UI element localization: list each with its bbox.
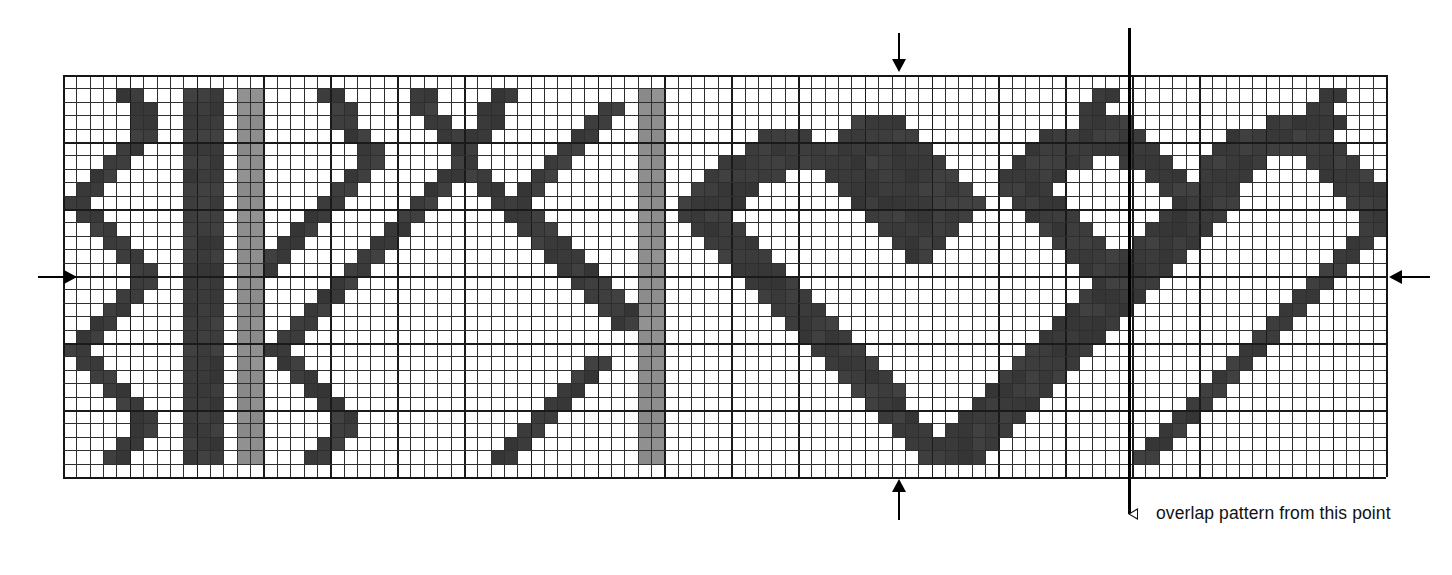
pattern-cell bbox=[1079, 142, 1092, 155]
pattern-cell bbox=[1105, 343, 1118, 356]
pattern-cell bbox=[972, 450, 985, 463]
pattern-cell bbox=[304, 437, 317, 450]
pattern-cell bbox=[263, 236, 276, 249]
pattern-cell bbox=[811, 249, 824, 262]
pattern-cell bbox=[598, 169, 611, 182]
pattern-cell bbox=[410, 182, 423, 195]
pattern-cell bbox=[678, 102, 691, 115]
pattern-cell bbox=[76, 75, 89, 88]
pattern-cell bbox=[90, 75, 103, 88]
pattern-cell bbox=[1186, 209, 1199, 222]
pattern-cell bbox=[598, 102, 611, 115]
pattern-cell bbox=[344, 129, 357, 142]
pattern-cell bbox=[1052, 423, 1065, 436]
pattern-cell bbox=[985, 129, 998, 142]
pattern-cell bbox=[344, 169, 357, 182]
pattern-cell bbox=[384, 437, 397, 450]
pattern-cell bbox=[90, 343, 103, 356]
pattern-cell bbox=[277, 464, 290, 477]
pattern-cell bbox=[116, 397, 129, 410]
pattern-cell bbox=[451, 182, 464, 195]
pattern-cell bbox=[370, 182, 383, 195]
pattern-cell bbox=[1186, 155, 1199, 168]
pattern-cell bbox=[798, 383, 811, 396]
pattern-cell bbox=[838, 249, 851, 262]
pattern-cell bbox=[477, 343, 490, 356]
pattern-cell bbox=[1159, 263, 1172, 276]
pattern-cell bbox=[731, 383, 744, 396]
pattern-cell bbox=[945, 276, 958, 289]
pattern-cell bbox=[932, 102, 945, 115]
pattern-cell bbox=[1306, 249, 1319, 262]
pattern-cell bbox=[1079, 410, 1092, 423]
pattern-cell bbox=[290, 209, 303, 222]
pattern-cell bbox=[798, 356, 811, 369]
pattern-cell bbox=[1212, 263, 1225, 276]
pattern-cell bbox=[1346, 397, 1359, 410]
pattern-cell bbox=[664, 316, 677, 329]
pattern-cell bbox=[370, 437, 383, 450]
pattern-cell bbox=[210, 397, 223, 410]
pattern-cell bbox=[1226, 129, 1239, 142]
pattern-cell bbox=[1052, 88, 1065, 101]
pattern-cell bbox=[718, 289, 731, 302]
pattern-cell bbox=[90, 88, 103, 101]
pattern-cell bbox=[1159, 142, 1172, 155]
pattern-cell bbox=[865, 88, 878, 101]
pattern-cell bbox=[277, 450, 290, 463]
pattern-cell bbox=[811, 182, 824, 195]
pattern-cell bbox=[598, 142, 611, 155]
pattern-cell bbox=[1239, 437, 1252, 450]
pattern-cell bbox=[197, 75, 210, 88]
pattern-cell bbox=[571, 464, 584, 477]
pattern-cell bbox=[183, 464, 196, 477]
pattern-cell bbox=[1012, 370, 1025, 383]
pattern-cell bbox=[1105, 209, 1118, 222]
pattern-cell bbox=[116, 423, 129, 436]
pattern-cell bbox=[1172, 276, 1185, 289]
pattern-cell bbox=[945, 182, 958, 195]
pattern-grid bbox=[63, 75, 1386, 477]
pattern-cell bbox=[370, 142, 383, 155]
pattern-cell bbox=[1025, 289, 1038, 302]
pattern-cell bbox=[143, 249, 156, 262]
pattern-cell bbox=[1319, 115, 1332, 128]
pattern-cell bbox=[1319, 75, 1332, 88]
pattern-cell bbox=[397, 397, 410, 410]
pattern-cell bbox=[1333, 464, 1346, 477]
pattern-cell bbox=[1039, 263, 1052, 276]
pattern-cell bbox=[825, 249, 838, 262]
pattern-cell bbox=[1346, 343, 1359, 356]
pattern-cell bbox=[664, 222, 677, 235]
pattern-cell bbox=[998, 88, 1011, 101]
pattern-cell bbox=[798, 397, 811, 410]
pattern-cell bbox=[1346, 196, 1359, 209]
pattern-cell bbox=[76, 410, 89, 423]
pattern-cell bbox=[250, 88, 263, 101]
pattern-cell bbox=[651, 303, 664, 316]
pattern-cell bbox=[491, 155, 504, 168]
pattern-cell bbox=[344, 263, 357, 276]
pattern-cell bbox=[143, 196, 156, 209]
pattern-cell bbox=[905, 222, 918, 235]
pattern-cell bbox=[1186, 142, 1199, 155]
pattern-cell bbox=[985, 169, 998, 182]
pattern-cell bbox=[1132, 142, 1145, 155]
pattern-cell bbox=[1092, 222, 1105, 235]
pattern-cell bbox=[611, 142, 624, 155]
pattern-cell bbox=[197, 289, 210, 302]
pattern-cell bbox=[758, 196, 771, 209]
pattern-cell bbox=[277, 169, 290, 182]
pattern-cell bbox=[437, 155, 450, 168]
pattern-cell bbox=[691, 102, 704, 115]
pattern-cell bbox=[851, 222, 864, 235]
pattern-cell bbox=[424, 182, 437, 195]
pattern-cell bbox=[451, 276, 464, 289]
pattern-cell bbox=[1186, 464, 1199, 477]
pattern-cell bbox=[1252, 397, 1265, 410]
pattern-cell bbox=[598, 356, 611, 369]
pattern-cell bbox=[544, 397, 557, 410]
pattern-cell bbox=[851, 75, 864, 88]
pattern-cell bbox=[1079, 397, 1092, 410]
pattern-cell bbox=[1279, 222, 1292, 235]
